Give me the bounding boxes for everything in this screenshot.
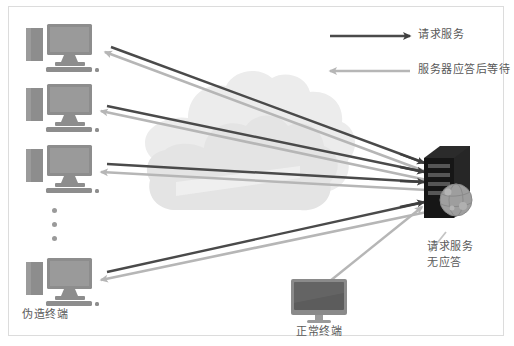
diagram-canvas: 请求服务 服务器应答后等待 (0, 0, 514, 346)
no-response-label-line1: 请求服务 (427, 240, 473, 254)
no-response-label-line2: 无应答 (427, 256, 462, 270)
server-tower-icon[interactable] (424, 146, 472, 218)
server-layer (0, 0, 514, 346)
